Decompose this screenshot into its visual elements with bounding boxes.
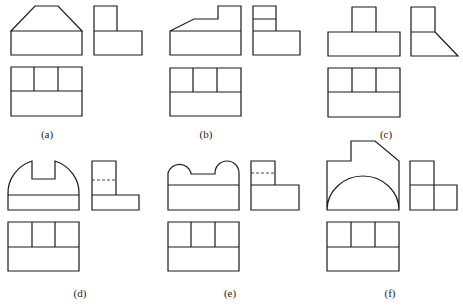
top-view	[170, 68, 241, 116]
caption-a: (a)	[41, 128, 53, 140]
panel-a	[11, 6, 142, 116]
panel-e	[168, 161, 299, 271]
panel-c	[328, 7, 458, 117]
side-view	[251, 161, 299, 210]
top-view	[328, 68, 400, 117]
side-view	[411, 7, 458, 56]
caption-f: (f)	[385, 287, 396, 299]
caption-d: (d)	[74, 287, 87, 299]
caption-c: (c)	[380, 128, 392, 140]
side-view	[410, 161, 457, 210]
front-view	[170, 6, 241, 55]
front-view	[8, 161, 79, 210]
top-view	[327, 222, 399, 271]
top-view	[11, 67, 82, 116]
top-view	[8, 222, 79, 271]
front-view	[328, 7, 400, 56]
panel-d	[8, 161, 139, 271]
side-view	[94, 6, 142, 55]
side-view	[253, 6, 300, 55]
caption-e: (e)	[224, 287, 236, 299]
panel-f	[327, 141, 457, 271]
front-view	[327, 141, 399, 210]
side-view	[92, 161, 139, 210]
front-view	[168, 161, 239, 210]
three-view-drawings	[0, 0, 463, 308]
panel-b	[170, 6, 300, 116]
caption-b: (b)	[200, 128, 213, 140]
front-view	[11, 6, 82, 55]
top-view	[168, 222, 239, 271]
